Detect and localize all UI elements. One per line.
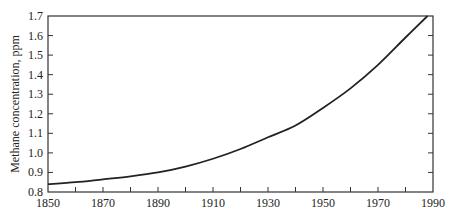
y-axis-ticks: 0.80.91.01.11.21.31.41.51.61.7	[28, 9, 433, 199]
x-tick-label: 1890	[146, 196, 170, 210]
y-axis-label: Methane concentration, ppm	[8, 35, 22, 173]
plot-frame	[48, 16, 433, 192]
x-axis-ticks: 18501870189019101930195019701990	[36, 187, 445, 210]
x-tick-label: 1870	[91, 196, 115, 210]
x-tick-label: 1990	[421, 196, 445, 210]
methane-curve	[48, 16, 428, 184]
x-tick-label: 1850	[36, 196, 60, 210]
x-tick-label: 1970	[366, 196, 390, 210]
x-tick-label: 1930	[256, 196, 280, 210]
methane-concentration-chart: 0.80.91.01.11.21.31.41.51.61.7 185018701…	[0, 0, 458, 220]
y-tick-label: 1.0	[28, 146, 43, 160]
y-tick-label: 1.5	[28, 48, 43, 62]
plot-border	[48, 16, 433, 192]
y-tick-label: 0.9	[28, 165, 43, 179]
y-tick-label: 1.6	[28, 29, 43, 43]
x-tick-label: 1910	[201, 196, 225, 210]
y-tick-label: 1.2	[28, 107, 43, 121]
data-series	[48, 16, 428, 184]
y-tick-label: 1.7	[28, 9, 43, 23]
y-tick-label: 1.4	[28, 68, 43, 82]
x-tick-label: 1950	[311, 196, 335, 210]
y-tick-label: 1.1	[28, 126, 43, 140]
y-tick-label: 1.3	[28, 87, 43, 101]
